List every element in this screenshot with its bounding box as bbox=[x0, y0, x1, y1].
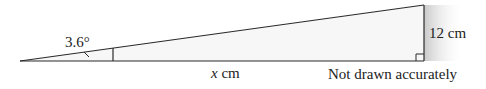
height-label: 12 cm bbox=[429, 26, 466, 41]
base-variable: x bbox=[211, 65, 218, 81]
triangle-diagram: 3.6° x cm 12 cm Not drawn accurately bbox=[0, 0, 486, 89]
angle-label: 3.6° bbox=[65, 35, 90, 50]
base-label: x cm bbox=[211, 66, 240, 81]
accuracy-note: Not drawn accurately bbox=[328, 67, 457, 82]
base-unit: cm bbox=[218, 65, 240, 81]
